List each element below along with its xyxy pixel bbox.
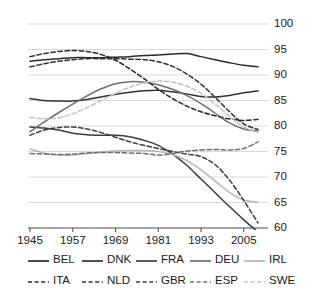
legend-row-dashed: ITANLDGBRESPSWE [0, 269, 313, 290]
legend-swatch-nld [82, 274, 103, 286]
legend-item-deu[interactable]: DEU [190, 248, 239, 269]
x-tick-label: 1993 [179, 234, 223, 246]
legend-item-bel[interactable]: BEL [28, 248, 75, 269]
legend-label: SWE [269, 274, 295, 286]
gridlines [28, 24, 268, 228]
y-tick-label: 75 [274, 145, 287, 157]
legend-row-solid: BELDNKFRADEUIRL [0, 248, 313, 269]
legend-label: DNK [107, 253, 131, 265]
legend-swatch-fra [136, 253, 157, 265]
legend-swatch-irl [244, 253, 265, 265]
x-tick-label: 2005 [222, 234, 266, 246]
x-axis [30, 228, 244, 232]
series-line-irl [30, 149, 258, 202]
y-tick-label: 100 [274, 17, 293, 29]
legend-label: NLD [107, 274, 130, 286]
series-line-esp [30, 142, 258, 155]
legend-label: ESP [215, 274, 238, 286]
y-tick-label: 65 [274, 196, 287, 208]
legend-item-gbr[interactable]: GBR [136, 269, 186, 290]
x-tick-label: 1957 [51, 234, 95, 246]
y-tick-label: 60 [274, 221, 287, 233]
legend-label: ITA [53, 274, 70, 286]
legend-item-dnk[interactable]: DNK [82, 248, 131, 269]
legend-swatch-bel [28, 253, 49, 265]
legend-item-ita[interactable]: ITA [28, 269, 70, 290]
y-tick-label: 85 [274, 94, 287, 106]
y-tick-label: 80 [274, 119, 287, 131]
legend-swatch-esp [190, 274, 211, 286]
x-tick-label: 1981 [136, 234, 180, 246]
legend-item-irl[interactable]: IRL [244, 248, 287, 269]
legend-swatch-dnk [82, 253, 103, 265]
legend-label: IRL [269, 253, 287, 265]
legend: BELDNKFRADEUIRL ITANLDGBRESPSWE [0, 248, 313, 290]
x-tick-label: 1945 [8, 234, 52, 246]
legend-item-esp[interactable]: ESP [190, 269, 238, 290]
series-line-fra [30, 127, 258, 232]
legend-label: FRA [161, 253, 184, 265]
legend-item-fra[interactable]: FRA [136, 248, 184, 269]
legend-item-swe[interactable]: SWE [244, 269, 295, 290]
y-tick-label: 95 [274, 43, 287, 55]
y-tick-label: 90 [274, 68, 287, 80]
series-lines [30, 51, 258, 233]
legend-label: GBR [161, 274, 186, 286]
legend-swatch-swe [244, 274, 265, 286]
legend-swatch-deu [190, 253, 211, 265]
legend-swatch-gbr [136, 274, 157, 286]
x-tick-label: 1969 [94, 234, 138, 246]
legend-label: BEL [53, 253, 75, 265]
line-chart: 6065707580859095100 19451957196919811993… [0, 0, 313, 300]
y-tick-label: 70 [274, 170, 287, 182]
legend-swatch-ita [28, 274, 49, 286]
series-line-gbr [30, 127, 258, 223]
legend-label: DEU [215, 253, 239, 265]
legend-item-nld[interactable]: NLD [82, 269, 130, 290]
series-line-dnk [30, 90, 258, 101]
